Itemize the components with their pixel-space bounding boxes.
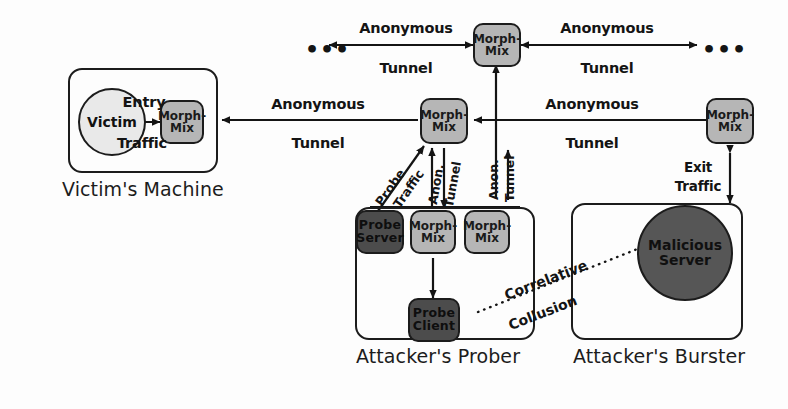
node-morphmix-top[interactable]: Morph- Mix bbox=[473, 23, 521, 67]
node-label-line2: Mix bbox=[475, 232, 499, 244]
node-label-line2: Mix bbox=[718, 121, 742, 133]
node-malicious-server[interactable]: Malicious Server bbox=[637, 205, 733, 301]
node-label-line2: Server bbox=[356, 232, 404, 245]
label-entry: Entry bbox=[123, 94, 166, 110]
ellipsis-left: ••• bbox=[305, 46, 350, 55]
label-anon-tunnel-vert-tunnel: Tunnel bbox=[502, 155, 517, 202]
caption-attackers-prober: Attacker's Prober bbox=[356, 345, 520, 367]
label-tunnel-topleft: Tunnel bbox=[380, 60, 433, 76]
label-tunnel-right: Tunnel bbox=[566, 135, 619, 151]
node-label-line2: Mix bbox=[421, 232, 445, 244]
node-label-line2: Mix bbox=[170, 122, 194, 134]
node-victim-label: Victim bbox=[87, 115, 137, 130]
node-label-line2: Mix bbox=[432, 121, 456, 133]
node-label-line2: Client bbox=[413, 320, 455, 333]
ellipsis-right: ••• bbox=[702, 46, 747, 55]
label-traffic-exit: Traffic bbox=[675, 178, 721, 194]
label-anonymous-topright: Anonymous bbox=[560, 20, 654, 36]
diagram-canvas: top mix --> "..." --> malicious server (… bbox=[0, 0, 788, 409]
node-label-line1: Malicious bbox=[648, 238, 722, 253]
node-morphmix-prober-left[interactable]: Morph- Mix bbox=[410, 210, 456, 254]
label-traffic: Traffic bbox=[117, 135, 167, 151]
node-probe-client[interactable]: Probe Client bbox=[408, 298, 460, 342]
label-anonymous-topleft: Anonymous bbox=[359, 20, 453, 36]
label-anonymous-left: Anonymous bbox=[271, 96, 365, 112]
node-morphmix-prober-right[interactable]: Morph- Mix bbox=[464, 210, 510, 254]
node-probe-server[interactable]: Probe Server bbox=[356, 210, 404, 254]
caption-victims-machine: Victim's Machine bbox=[62, 178, 224, 200]
label-tunnel-topright: Tunnel bbox=[581, 60, 634, 76]
node-morphmix-middle[interactable]: Morph- Mix bbox=[420, 98, 468, 144]
caption-attackers-burster: Attacker's Burster bbox=[573, 345, 745, 367]
label-exit: Exit bbox=[684, 159, 712, 175]
label-tunnel-left: Tunnel bbox=[292, 135, 345, 151]
node-label-line2: Server bbox=[659, 253, 711, 268]
node-label-line2: Mix bbox=[485, 45, 509, 57]
label-anonymous-right: Anonymous bbox=[545, 96, 639, 112]
label-anon-tunnel-vert-anon: Anon. bbox=[486, 159, 501, 200]
node-morphmix-right[interactable]: Morph- Mix bbox=[706, 98, 754, 144]
